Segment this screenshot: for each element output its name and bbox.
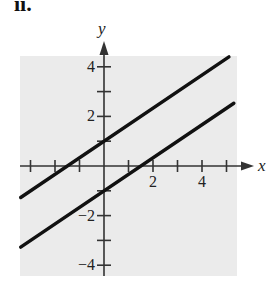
x-tick-label: 4 <box>198 173 206 190</box>
x-axis-label: x <box>257 156 266 175</box>
y-tick-label: 4 <box>87 58 95 75</box>
y-axis-label: y <box>96 19 106 38</box>
y-tick-label: −2 <box>78 207 95 224</box>
coordinate-plane: 24 42−2−4 x y <box>0 0 274 285</box>
y-axis-arrow-icon <box>100 41 109 55</box>
y-tick-label: −4 <box>78 256 95 273</box>
x-axis-arrow-icon <box>241 162 254 171</box>
x-tick-label: 2 <box>149 173 157 190</box>
y-tick-label: 2 <box>87 107 95 124</box>
